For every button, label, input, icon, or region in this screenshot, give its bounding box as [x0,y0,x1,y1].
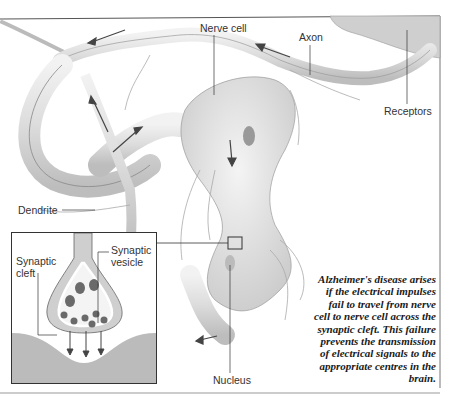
caption-line: appropriate centres in the [296,360,436,372]
label-nerve-cell: Nerve cell [200,22,247,34]
nucleus-shape [243,126,255,146]
caption-line: if the electrical impulses [296,285,436,297]
label-axon: Axon [299,31,323,43]
caption-line: synaptic cleft. This failure [296,323,436,335]
caption-line: Alzheimer's disease arises [296,273,436,285]
synaptic-vesicle-line2: vesicle [111,256,151,268]
label-synaptic-cleft: Synaptic cleft [16,255,56,279]
caption-line: cell to nerve cell across the [296,310,436,322]
caption: Alzheimer's disease arises if the electr… [296,273,436,385]
caption-line: prevents the transmission [296,335,436,347]
caption-line: fail to travel from nerve [296,298,436,310]
synaptic-vesicle-line1: Synaptic [111,244,151,256]
caption-line: brain. [296,372,436,384]
caption-line: of electrical signals to the [296,347,436,359]
synaptic-cleft-line1: Synaptic [16,255,56,267]
label-dendrite: Dendrite [18,204,58,216]
label-receptors: Receptors [384,105,432,117]
label-synaptic-vesicle: Synaptic vesicle [111,244,151,268]
synaptic-cleft-line2: cleft [16,267,56,279]
label-nucleus: Nucleus [213,374,251,386]
diagram-frame: Nerve cell Axon Receptors Dendrite Nucle… [0,0,452,402]
